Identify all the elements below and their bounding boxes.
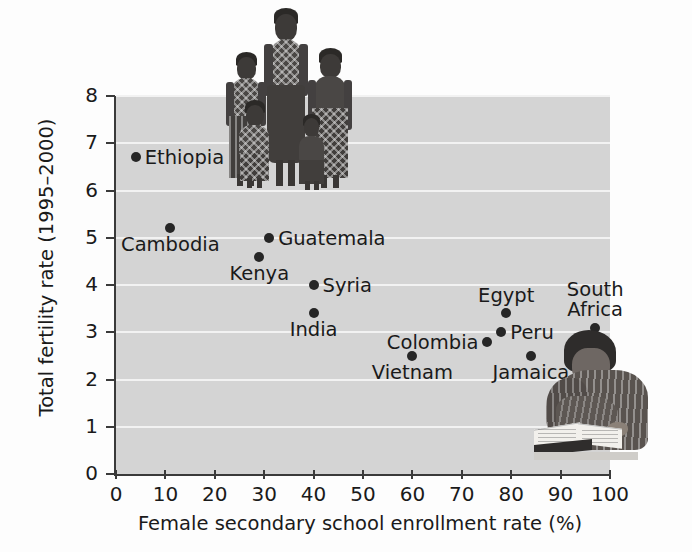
data-point[interactable] (131, 152, 141, 162)
point-label: Guatemala (278, 229, 385, 249)
x-tick-label: 60 (390, 482, 434, 506)
y-tick-label: 3 (72, 319, 98, 343)
x-tick-label: 0 (94, 482, 138, 506)
x-tick-label: 20 (193, 482, 237, 506)
y-axis-title: Total fertility rate (1995–2000) (35, 98, 58, 438)
y-tick (106, 190, 115, 192)
x-tick (214, 470, 216, 479)
data-point[interactable] (501, 308, 511, 318)
data-point[interactable] (165, 223, 175, 233)
x-tick-label: 10 (143, 482, 187, 506)
point-label: Syria (323, 276, 372, 296)
photo-woman-reading (534, 330, 658, 462)
y-tick-label: 4 (72, 272, 98, 296)
point-label: Vietnam (372, 363, 453, 383)
x-tick-label: 100 (588, 482, 632, 506)
gridline (116, 95, 610, 97)
y-tick-label: 8 (72, 83, 98, 107)
x-tick (115, 470, 117, 479)
y-tick (106, 426, 115, 428)
y-tick (106, 142, 115, 144)
y-tick-label: 6 (72, 178, 98, 202)
data-point[interactable] (254, 252, 264, 262)
x-tick (510, 470, 512, 479)
x-tick (164, 470, 166, 479)
y-tick-label: 1 (72, 414, 98, 438)
data-point[interactable] (309, 308, 319, 318)
x-tick (411, 470, 413, 479)
y-tick (106, 379, 115, 381)
y-tick (106, 95, 115, 97)
x-tick-label: 30 (242, 482, 286, 506)
point-label: Kenya (229, 264, 289, 284)
x-tick (609, 470, 611, 479)
y-axis-line (114, 96, 116, 476)
point-label: Cambodia (121, 235, 220, 255)
x-tick (362, 470, 364, 479)
data-point[interactable] (482, 337, 492, 347)
x-tick-label: 40 (292, 482, 336, 506)
x-tick-label: 90 (539, 482, 583, 506)
x-tick-label: 50 (341, 482, 385, 506)
y-tick-label: 7 (72, 130, 98, 154)
x-tick (461, 470, 463, 479)
x-tick (313, 470, 315, 479)
x-axis-title: Female secondary school enrollment rate … (70, 512, 650, 535)
x-tick-label: 80 (489, 482, 533, 506)
photo-women-and-children (222, 8, 354, 188)
y-tick (106, 331, 115, 333)
data-point[interactable] (264, 233, 274, 243)
point-label: Colombia (387, 333, 479, 353)
gridline (116, 190, 610, 192)
x-tick (560, 470, 562, 479)
y-tick-label: 2 (72, 367, 98, 391)
data-point[interactable] (496, 327, 506, 337)
x-tick (263, 470, 265, 479)
point-label: Egypt (478, 286, 534, 306)
y-tick (106, 473, 115, 475)
data-point[interactable] (309, 280, 319, 290)
x-tick-label: 70 (440, 482, 484, 506)
point-label: India (290, 320, 338, 340)
y-tick (106, 237, 115, 239)
point-label: Ethiopia (145, 148, 224, 168)
scatter-plot-figure: EthiopiaCambodiaKenyaGuatemalaSyriaIndia… (0, 0, 692, 552)
gridline (116, 142, 610, 144)
point-label: South Africa (567, 280, 624, 321)
y-tick-label: 5 (72, 225, 98, 249)
y-tick (106, 284, 115, 286)
